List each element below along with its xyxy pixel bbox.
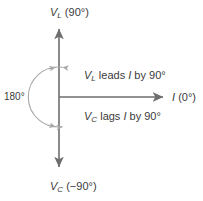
phasor-diagram: VL (90°) VC (−90°) I (0°) 180° VL leads …: [0, 0, 203, 201]
label-180: 180°: [4, 91, 25, 103]
label-i-angle: (0°): [178, 91, 196, 103]
label-vl-angle: (90°): [65, 6, 89, 18]
annotation-leads-verb: leads: [96, 69, 128, 81]
annotation-vc-lags: VC lags I by 90°: [84, 110, 161, 126]
annotation-vl-leads: VL leads I by 90°: [84, 69, 166, 85]
label-i-symbol: I: [172, 91, 175, 103]
label-vc: VC (−90°): [50, 180, 97, 196]
rotation-arc-upper: [28, 67, 62, 127]
label-vl: VL (90°): [50, 6, 89, 22]
label-i: I (0°): [172, 91, 196, 103]
label-vl-subscript: L: [57, 11, 61, 20]
annotation-lags-tail: by 90°: [126, 110, 160, 122]
annotation-lags-verb: lags: [97, 110, 123, 122]
annotation-leads-tail: by 90°: [131, 69, 165, 81]
label-vc-subscript: C: [57, 185, 63, 194]
label-vc-angle: (−90°): [66, 180, 96, 192]
